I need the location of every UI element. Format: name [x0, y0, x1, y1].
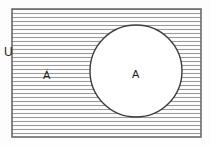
set-a-label: A	[132, 68, 140, 80]
universal-set-label: U	[4, 45, 13, 59]
complement-set-label: Á	[43, 69, 51, 81]
venn-diagram-figure: U Á A	[0, 0, 211, 145]
venn-diagram-canvas: U Á A	[0, 0, 211, 145]
